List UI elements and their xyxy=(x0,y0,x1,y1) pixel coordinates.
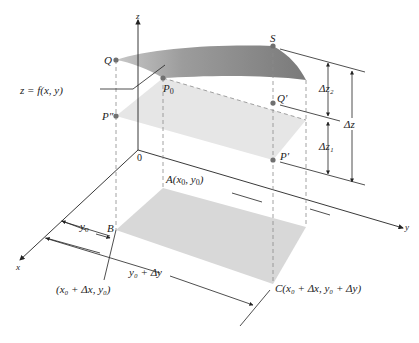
label-A: A(x0, y0) xyxy=(166,174,203,187)
y-axis-label: y xyxy=(405,223,409,232)
x-axis xyxy=(20,150,138,260)
middle-plane xyxy=(116,78,306,160)
x-axis-label: x xyxy=(16,263,20,272)
point-Q xyxy=(113,57,118,62)
label-P0: P0 xyxy=(163,83,174,96)
label-P-double-prime: P″ xyxy=(102,111,113,122)
label-P0-main: P xyxy=(163,82,170,94)
label-Q: Q xyxy=(104,55,112,66)
label-dz2: Δz₂ xyxy=(319,83,334,94)
label-y0-dy: y₀ + Δy xyxy=(129,267,162,278)
label-y0: y₀ xyxy=(80,221,89,232)
label-dz1: Δz₁ xyxy=(319,141,334,152)
point-P-double-prime xyxy=(113,113,118,118)
label-S: S xyxy=(270,33,276,44)
point-Q-prime xyxy=(270,100,275,105)
label-P0-sub: 0 xyxy=(170,87,174,96)
label-B: B xyxy=(107,223,114,234)
label-A-end: ) xyxy=(200,173,204,185)
point-P0 xyxy=(160,75,165,80)
surface-patch xyxy=(116,46,306,80)
z-axis-label: z xyxy=(136,12,140,21)
surface-label: z = f(x, y) xyxy=(20,85,63,96)
point-S xyxy=(270,43,275,48)
label-A-main: A(x xyxy=(166,173,181,185)
point-P-prime xyxy=(270,157,275,162)
label-Q-prime: Q′ xyxy=(277,93,287,104)
label-P-prime: P′ xyxy=(280,151,289,162)
label-dz: Δz xyxy=(344,119,355,130)
label-A-mid: , y xyxy=(185,173,195,185)
label-C: C(x₀ + Δx, y₀ + Δy) xyxy=(275,283,361,294)
label-B-coord: (x₀ + Δx, y₀) xyxy=(56,284,111,295)
origin-label: 0 xyxy=(137,153,142,163)
